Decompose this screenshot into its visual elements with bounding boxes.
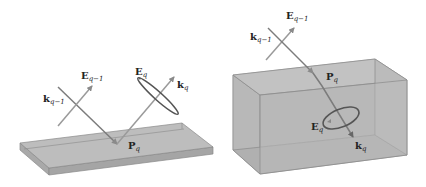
surface-slab: [20, 123, 213, 175]
label-k-prev-right: kq−1: [250, 31, 272, 44]
label-e-prev: Eq−1: [81, 70, 103, 83]
label-k-cur: kq: [177, 79, 189, 92]
label-e-prev-right: Eq−1: [286, 10, 308, 23]
volume-box: [233, 59, 407, 174]
label-k-prev: kq−1: [43, 93, 65, 106]
left-panel: Eq−1 kq−1 Eq kq Pq: [20, 66, 213, 175]
e-prev-vector-right: [266, 28, 294, 60]
diagram-canvas: Eq−1 kq−1 Eq kq Pq Eq−1: [0, 0, 426, 187]
right-panel: Eq−1 kq−1 Pq Eq kq: [233, 10, 407, 174]
label-e-cur: Eq: [135, 66, 148, 79]
